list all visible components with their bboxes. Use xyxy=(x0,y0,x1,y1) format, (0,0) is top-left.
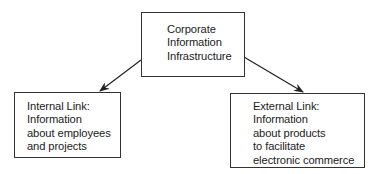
external-line-3: about products xyxy=(253,127,354,140)
external-line-4: to facilitate xyxy=(253,140,354,153)
internal-line-1: Internal Link: xyxy=(27,100,111,113)
external-line-1: External Link: xyxy=(253,100,354,113)
root-node-box: Corporate Information Infrastructure xyxy=(141,12,245,77)
external-link-box: External Link: Information about product… xyxy=(230,93,365,168)
root-line-3: Infrastructure xyxy=(167,50,232,63)
diagram-canvas: Corporate Information Infrastructure Int… xyxy=(0,0,381,174)
external-line-2: Information xyxy=(253,113,354,126)
external-line-5: electronic commerce xyxy=(253,154,354,167)
internal-line-3: about employees xyxy=(27,127,111,140)
arrow-to-internal-link xyxy=(100,60,141,91)
arrow-to-external-link xyxy=(244,57,303,92)
internal-line-2: Information xyxy=(27,113,111,126)
internal-line-4: and projects xyxy=(27,140,111,153)
root-line-1: Corporate xyxy=(167,23,232,36)
root-line-2: Information xyxy=(167,36,232,49)
internal-link-box: Internal Link: Information about employe… xyxy=(14,92,121,158)
